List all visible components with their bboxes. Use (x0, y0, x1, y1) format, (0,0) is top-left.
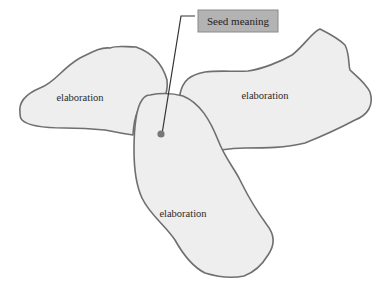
blob-label-bottom: elaboration (159, 208, 207, 219)
seed-meaning-callout-label: Seed meaning (207, 15, 270, 27)
blob-label-right: elaboration (241, 90, 289, 101)
seed-point-marker (157, 130, 164, 137)
seed-meaning-diagram: elaboration elaboration elaboration Seed… (0, 0, 385, 291)
blob-label-left: elaboration (56, 92, 104, 103)
